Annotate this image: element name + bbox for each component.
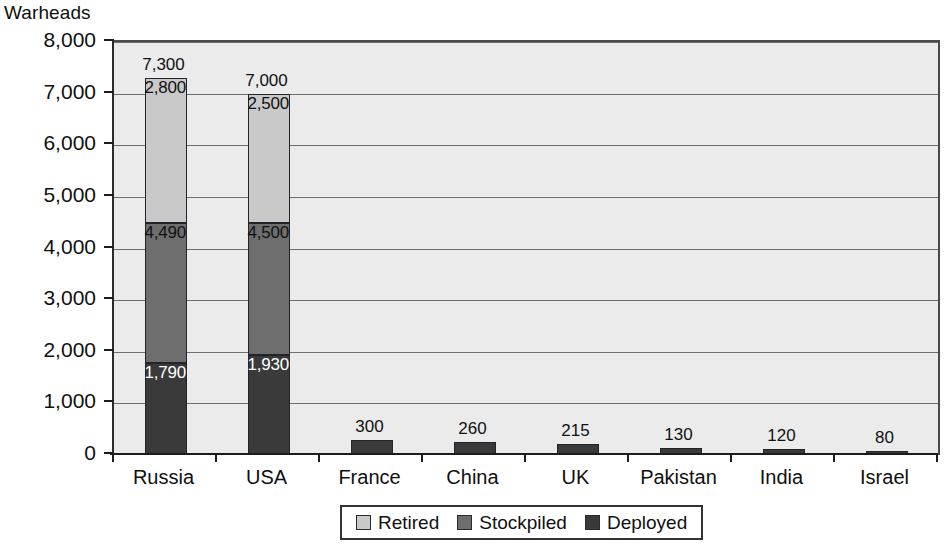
bar-total-label-israel: 80	[833, 429, 936, 446]
bar-total-label-china: 260	[421, 420, 524, 437]
y-tick-label-1000: 1,000	[0, 390, 96, 411]
legend-item-deployed[interactable]: Deployed	[585, 513, 687, 532]
y-tick-label-4000: 4,000	[0, 236, 96, 257]
x-tick-mark-4	[524, 453, 526, 462]
legend-label-stockpiled: Stockpiled	[479, 513, 567, 532]
bar-total-label-uk: 215	[524, 422, 627, 439]
bar-total-label-pakistan: 130	[627, 426, 730, 443]
y-tick-label-2000: 2,000	[0, 339, 96, 360]
segment-value-label-usa-retired: 2,500	[248, 95, 290, 112]
segment-value-label-usa-deployed: 1,930	[248, 356, 290, 373]
x-tick-mark-1	[215, 453, 217, 462]
gridline-3000	[114, 300, 938, 301]
x-tick-mark-6	[730, 453, 732, 462]
segment-value-label-russia-retired: 2,800	[145, 79, 187, 96]
gridline-2000	[114, 352, 938, 353]
segment-value-label-russia-deployed: 1,790	[145, 364, 187, 381]
gridline-1000	[114, 403, 938, 404]
gridline-5000	[114, 197, 938, 198]
bar-total-label-france: 300	[318, 418, 421, 435]
bar-usa[interactable]	[248, 94, 290, 455]
y-tick-mark-8000	[104, 39, 114, 41]
bar-total-label-india: 120	[730, 427, 833, 444]
x-category-label-china: China	[421, 466, 524, 489]
bar-segment-usa-stockpiled[interactable]	[248, 223, 290, 356]
bar-total-label-usa: 7,000	[215, 72, 318, 89]
x-tick-mark-0	[112, 453, 114, 462]
y-tick-mark-2000	[104, 349, 114, 351]
x-category-label-uk: UK	[524, 466, 627, 489]
bar-russia[interactable]	[145, 78, 187, 455]
bar-segment-russia-stockpiled[interactable]	[145, 223, 187, 362]
y-tick-label-6000: 6,000	[0, 132, 96, 153]
gridline-6000	[114, 145, 938, 146]
segment-value-label-usa-stockpiled: 4,500	[248, 224, 290, 241]
y-tick-mark-5000	[104, 194, 114, 196]
legend-swatch-stockpiled	[457, 515, 472, 530]
y-tick-mark-6000	[104, 142, 114, 144]
y-tick-mark-4000	[104, 246, 114, 248]
x-tick-mark-5	[627, 453, 629, 462]
x-category-label-israel: Israel	[833, 466, 936, 489]
legend-swatch-deployed	[585, 515, 600, 530]
y-axis-title: Warheads	[4, 2, 91, 24]
legend-label-retired: Retired	[378, 513, 439, 532]
gridline-7000	[114, 94, 938, 95]
x-category-label-russia: Russia	[112, 466, 215, 489]
gridline-4000	[114, 249, 938, 250]
bar-segment-usa-retired[interactable]	[248, 94, 290, 223]
x-category-label-pakistan: Pakistan	[627, 466, 730, 489]
legend-item-stockpiled[interactable]: Stockpiled	[457, 513, 567, 532]
y-tick-label-3000: 3,000	[0, 287, 96, 308]
gridline-8000	[114, 42, 938, 43]
chart-canvas: Warheads 8,0007,0006,0005,0004,0003,0002…	[0, 0, 952, 557]
legend-item-retired[interactable]: Retired	[356, 513, 439, 532]
plot-area	[112, 40, 940, 455]
x-tick-mark-2	[318, 453, 320, 462]
y-tick-mark-7000	[104, 91, 114, 93]
y-tick-mark-1000	[104, 400, 114, 402]
x-tick-mark-8	[936, 453, 938, 462]
y-tick-label-0: 0	[0, 442, 96, 463]
x-category-label-india: India	[730, 466, 833, 489]
y-tick-label-8000: 8,000	[0, 29, 96, 50]
y-tick-mark-3000	[104, 297, 114, 299]
x-tick-mark-7	[833, 453, 835, 462]
bar-total-label-russia: 7,300	[112, 56, 215, 73]
legend-swatch-retired	[356, 515, 371, 530]
chart-legend: RetiredStockpiledDeployed	[340, 505, 703, 540]
x-category-label-france: France	[318, 466, 421, 489]
segment-value-label-russia-stockpiled: 4,490	[145, 224, 187, 241]
x-tick-mark-3	[421, 453, 423, 462]
x-category-label-usa: USA	[215, 466, 318, 489]
legend-label-deployed: Deployed	[607, 513, 687, 532]
bar-segment-russia-retired[interactable]	[145, 78, 187, 223]
y-tick-label-7000: 7,000	[0, 81, 96, 102]
y-tick-label-5000: 5,000	[0, 184, 96, 205]
